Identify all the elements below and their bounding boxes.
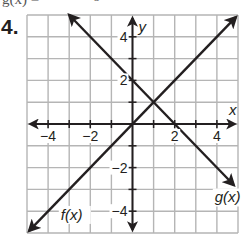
y-tick-label: −2 bbox=[112, 160, 128, 176]
y-tick-label: 4 bbox=[120, 29, 128, 45]
x-tick-label: −4 bbox=[40, 128, 56, 144]
y-tick-label: −4 bbox=[112, 203, 128, 219]
x-axis-label: x bbox=[228, 101, 237, 118]
line-gx bbox=[69, 15, 234, 185]
coordinate-graph: −4−22442−2−4xyf(x)g(x) bbox=[0, 0, 244, 241]
y-tick-label: 2 bbox=[120, 72, 128, 88]
series-label-gx: g(x) bbox=[215, 188, 241, 205]
series-label-fx: f(x) bbox=[61, 206, 83, 223]
y-axis-label: y bbox=[138, 18, 148, 35]
x-tick-label: −2 bbox=[82, 128, 98, 144]
x-tick-label: 4 bbox=[213, 128, 221, 144]
x-tick-label: 2 bbox=[171, 128, 179, 144]
